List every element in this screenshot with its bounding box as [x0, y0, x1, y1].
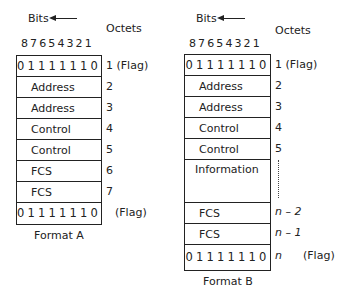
- octet-label: 1 (Flag): [275, 58, 317, 71]
- octet-label: 5: [275, 142, 282, 155]
- octet-label: 3: [275, 100, 282, 113]
- bits-label: Bits: [28, 12, 49, 25]
- field-label: Control: [185, 143, 239, 156]
- address-field: Address: [185, 97, 270, 118]
- octet-label: 4: [106, 122, 113, 135]
- field-label: Information: [185, 160, 259, 176]
- octet-label: n – 1: [275, 226, 301, 239]
- flag-field: 01111110: [17, 203, 101, 223]
- field-label: Control: [185, 122, 239, 135]
- octet-label: 1 (Flag): [106, 59, 148, 72]
- control-field: Control: [185, 139, 270, 160]
- flag-note: (Flag): [303, 249, 335, 262]
- fcs-field: FCS: [17, 182, 101, 203]
- format-b-caption: Format B: [203, 275, 253, 288]
- field-label: Control: [17, 144, 71, 157]
- bit-numbers: 87654321: [189, 37, 262, 50]
- ellipsis-dots: [278, 160, 279, 198]
- fcs-field: FCS: [185, 203, 270, 224]
- field-label: Address: [17, 102, 75, 115]
- octet-label: 3: [106, 101, 113, 114]
- field-label: Address: [185, 80, 243, 93]
- address-field: Address: [17, 77, 101, 98]
- field-label: Control: [17, 123, 71, 136]
- address-field: Address: [185, 76, 270, 97]
- flag-field: 01111110: [185, 245, 270, 269]
- octet-label: 4: [275, 121, 282, 134]
- bit-numbers: 87654321: [21, 37, 94, 50]
- control-field: Control: [17, 119, 101, 140]
- octet-label: 5: [106, 143, 113, 156]
- control-field: Control: [17, 140, 101, 161]
- field-label: Address: [17, 81, 75, 94]
- octet-label: 2: [275, 79, 282, 92]
- arrow-line: [55, 18, 77, 19]
- field-label: FCS: [185, 207, 220, 220]
- octet-label: 7: [106, 185, 113, 198]
- fcs-field: FCS: [185, 224, 270, 245]
- address-field: Address: [17, 98, 101, 119]
- bits-label: Bits: [196, 12, 217, 25]
- arrow-line: [223, 18, 245, 19]
- flag-field: 01111110: [17, 56, 101, 77]
- octet-label: 6: [106, 164, 113, 177]
- field-label: FCS: [17, 165, 52, 178]
- octet-label: 2: [106, 80, 113, 93]
- format-b-frame: 01111110 Address Address Control Control…: [184, 54, 271, 271]
- octet-label: (Flag): [115, 206, 147, 219]
- octets-label: Octets: [106, 22, 142, 35]
- field-label: FCS: [17, 186, 52, 199]
- octets-label: Octets: [275, 24, 311, 37]
- information-field: Information: [185, 160, 270, 203]
- octet-label: n – 2: [275, 205, 301, 218]
- format-a-caption: Format A: [34, 229, 84, 242]
- field-label: Address: [185, 101, 243, 114]
- octet-label: n: [275, 249, 282, 262]
- fcs-field: FCS: [17, 161, 101, 182]
- flag-field: 01111110: [185, 55, 270, 76]
- format-a-frame: 01111110 Address Address Control Control…: [16, 55, 102, 225]
- field-label: FCS: [185, 228, 220, 241]
- control-field: Control: [185, 118, 270, 139]
